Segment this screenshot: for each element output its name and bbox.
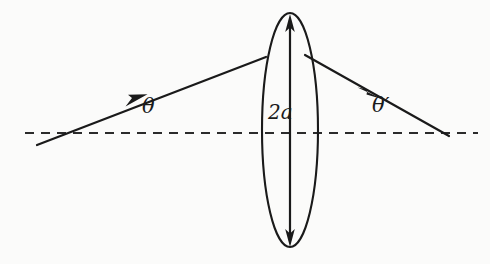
- lens-ray-diagram: θ θ′ 2a: [0, 0, 490, 264]
- aperture-double-arrow: [285, 14, 295, 247]
- incident-angle-label: θ: [142, 96, 155, 117]
- refracted-angle-label: θ′: [372, 95, 389, 116]
- diagram-canvas: [0, 0, 490, 264]
- aperture-label: 2a: [268, 102, 293, 122]
